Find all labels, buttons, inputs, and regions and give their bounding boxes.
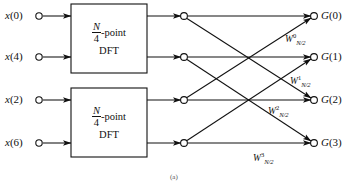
signal-flow-graph — [0, 0, 350, 181]
mid-node-2 — [181, 97, 188, 104]
figure-caption: (a) — [170, 173, 178, 181]
input-leads — [43, 16, 71, 143]
mid-nodes — [181, 13, 188, 147]
mid-node-0 — [181, 13, 188, 20]
figure-canvas: x(0) x(4) x(2) x(6) N 4 -point DFT N 4 -… — [0, 0, 350, 181]
input-label-x6: x(6) — [5, 137, 23, 148]
fraction-n-over-4-bottom: N 4 — [92, 105, 101, 128]
input-label-x2: x(2) — [5, 94, 23, 105]
dft-block-top-label: N 4 -point DFT — [76, 22, 142, 57]
twiddle-label-w2: W2N/2 — [268, 106, 289, 116]
fraction-n-over-4-top: N 4 — [92, 21, 101, 44]
output-nodes — [311, 13, 318, 147]
output-node-G0 — [311, 13, 318, 20]
input-terminals — [36, 13, 42, 146]
twiddle-label-w3: W3N/2 — [253, 153, 274, 163]
output-label-G2: G(2) — [321, 94, 342, 105]
input-terminal-x6 — [36, 140, 42, 146]
output-node-G1 — [311, 54, 318, 61]
mid-node-1 — [181, 54, 188, 61]
output-node-G3 — [311, 140, 318, 147]
input-label-x4: x(4) — [5, 51, 23, 62]
twiddle-label-w0: W0N/2 — [285, 34, 306, 44]
output-label-G1: G(1) — [321, 51, 342, 62]
mid-node-3 — [181, 140, 188, 147]
input-terminal-x0 — [36, 13, 42, 19]
block-output-leads — [147, 16, 181, 143]
input-label-x0: x(0) — [5, 10, 23, 21]
output-label-G3: G(3) — [321, 137, 342, 148]
input-terminal-x4 — [36, 54, 42, 60]
dft-block-bottom-label: N 4 -point DFT — [76, 106, 142, 141]
input-terminal-x2 — [36, 97, 42, 103]
twiddle-label-w1: W1N/2 — [290, 76, 311, 86]
output-node-G2 — [311, 97, 318, 104]
output-label-G0: G(0) — [321, 10, 342, 21]
